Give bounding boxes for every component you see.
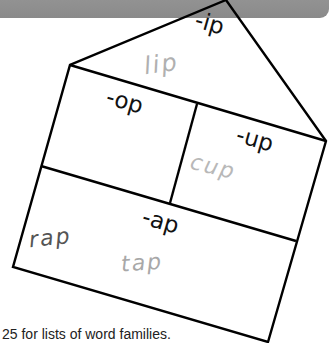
word-lip: lip xyxy=(142,50,180,79)
word-rap: rap xyxy=(28,225,73,251)
word-tap: tap xyxy=(120,251,164,276)
caption-text: 25 for lists of word families. xyxy=(2,326,171,342)
